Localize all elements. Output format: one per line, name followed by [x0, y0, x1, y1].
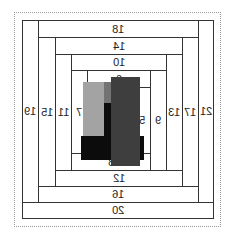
strip-label: 10 — [113, 57, 125, 68]
strip-9: 9 — [150, 70, 167, 171]
strip-label: 14 — [113, 41, 125, 52]
strip-15: 15 — [38, 37, 56, 187]
strip-label: 20 — [112, 205, 124, 216]
strip-12: 12 — [55, 170, 183, 187]
strip-label: 13 — [168, 107, 180, 118]
dark-gray-block — [111, 77, 140, 166]
strip-label: 5 — [139, 115, 145, 126]
strip-17: 17 — [182, 37, 199, 187]
strip-20: 20 — [22, 202, 214, 219]
strip-label: 19 — [24, 106, 36, 117]
strip-16: 16 — [38, 186, 199, 203]
strip-14: 14 — [55, 37, 183, 55]
strip-label: 12 — [113, 173, 125, 184]
light-gray-block — [83, 82, 104, 138]
strip-11: 11 — [55, 54, 72, 171]
strip-label: 18 — [112, 24, 124, 35]
strip-13: 13 — [166, 54, 183, 171]
strip-19: 19 — [22, 20, 39, 203]
strip-10: 10 — [71, 54, 167, 71]
strip-label: 21 — [200, 106, 212, 117]
strip-18: 18 — [38, 20, 199, 38]
strip-label: 17 — [184, 107, 196, 118]
strip-label: 7 — [76, 107, 82, 118]
strip-21: 21 — [198, 20, 214, 203]
strip-label: 11 — [58, 107, 69, 118]
strip-label: 9 — [155, 115, 161, 126]
strip-label: 15 — [41, 107, 53, 118]
strip-label: 16 — [112, 189, 124, 200]
